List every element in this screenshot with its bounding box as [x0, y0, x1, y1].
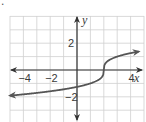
x-tick-label: −2 [45, 72, 58, 84]
x-axis-label: x [133, 71, 140, 85]
axes [11, 17, 142, 120]
x-tick-label: −4 [18, 72, 31, 84]
y-axis-label: y [81, 13, 88, 27]
y-tick-label: −2 [65, 91, 78, 103]
function-graph: −4−242−2xy [0, 0, 146, 122]
y-tick-label: 2 [68, 37, 74, 49]
